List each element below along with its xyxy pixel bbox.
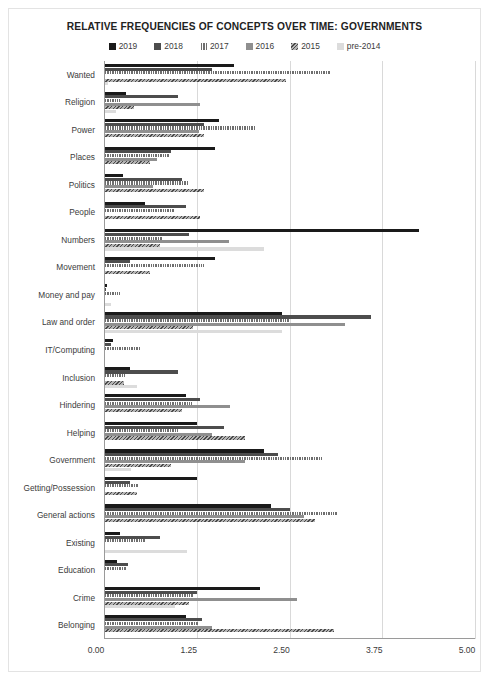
bar[interactable] [104, 433, 212, 436]
bar[interactable] [104, 504, 271, 507]
bar[interactable] [104, 319, 290, 322]
bar[interactable] [104, 237, 163, 240]
bar[interactable] [104, 240, 229, 243]
bar[interactable] [104, 560, 117, 563]
bar[interactable] [104, 134, 204, 137]
bar[interactable] [104, 79, 286, 82]
bar[interactable] [104, 323, 345, 326]
bar[interactable] [104, 95, 178, 98]
bar[interactable] [104, 519, 315, 522]
bar[interactable] [104, 150, 171, 153]
bar[interactable] [104, 68, 212, 71]
bar[interactable] [104, 260, 130, 263]
bar[interactable] [104, 209, 174, 212]
bar[interactable] [104, 426, 224, 429]
bar[interactable] [104, 563, 128, 566]
bar[interactable] [104, 594, 193, 597]
bar[interactable] [104, 598, 297, 601]
bar[interactable] [104, 110, 116, 113]
bar[interactable] [104, 374, 125, 377]
bar[interactable] [104, 315, 371, 318]
bar[interactable] [104, 602, 189, 605]
bar[interactable] [104, 178, 182, 181]
bar[interactable] [104, 512, 338, 515]
bar[interactable] [104, 326, 193, 329]
bar[interactable] [104, 402, 192, 405]
bar[interactable] [104, 92, 126, 95]
bar[interactable] [104, 181, 189, 184]
bar[interactable] [104, 405, 230, 408]
bar[interactable] [104, 185, 153, 188]
bar[interactable] [104, 71, 330, 74]
legend-item-2019[interactable]: 2019 [109, 41, 138, 51]
bar[interactable] [104, 567, 126, 570]
bar[interactable] [104, 429, 178, 432]
bar[interactable] [104, 398, 200, 401]
bar[interactable] [104, 385, 137, 388]
bar[interactable] [104, 244, 160, 247]
bar[interactable] [104, 126, 256, 129]
bar[interactable] [104, 539, 145, 542]
bar[interactable] [104, 464, 171, 467]
legend-item-2015[interactable]: 2015 [291, 41, 320, 51]
bar[interactable] [104, 484, 139, 487]
bar[interactable] [104, 312, 282, 315]
bar[interactable] [104, 202, 145, 205]
bar[interactable] [104, 292, 120, 295]
bar[interactable] [104, 508, 290, 511]
bar[interactable] [104, 257, 215, 260]
bar[interactable] [104, 587, 260, 590]
bar[interactable] [104, 367, 130, 370]
bar[interactable] [104, 147, 215, 150]
bar[interactable] [104, 457, 323, 460]
bar[interactable] [104, 271, 150, 274]
bar[interactable] [104, 99, 120, 102]
bar[interactable] [104, 216, 200, 219]
bar[interactable] [104, 453, 278, 456]
bar[interactable] [104, 532, 120, 535]
bar[interactable] [104, 477, 197, 480]
bar[interactable] [104, 161, 150, 164]
bar[interactable] [104, 154, 169, 157]
bar[interactable] [104, 436, 245, 439]
bar[interactable] [104, 591, 197, 594]
bar[interactable] [104, 343, 111, 346]
bar[interactable] [104, 394, 186, 397]
bar[interactable] [104, 130, 199, 133]
bar[interactable] [104, 339, 113, 342]
bar[interactable] [104, 158, 157, 161]
bar[interactable] [104, 233, 189, 236]
bar[interactable] [104, 449, 264, 452]
bar[interactable] [104, 205, 186, 208]
bar[interactable] [104, 409, 182, 412]
bar[interactable] [104, 618, 202, 621]
bar[interactable] [104, 64, 234, 67]
legend-item-2018[interactable]: 2018 [154, 41, 183, 51]
bar[interactable] [104, 247, 264, 250]
bar[interactable] [104, 174, 123, 177]
bar[interactable] [104, 515, 304, 518]
legend-item-pre-2014[interactable]: pre-2014 [337, 41, 381, 51]
bar[interactable] [104, 422, 197, 425]
legend-item-2016[interactable]: 2016 [246, 41, 275, 51]
bar[interactable] [104, 626, 212, 629]
bar[interactable] [104, 460, 245, 463]
bar[interactable] [104, 370, 178, 373]
bar[interactable] [104, 605, 175, 608]
bar[interactable] [104, 550, 187, 553]
bar[interactable] [104, 481, 130, 484]
bar[interactable] [104, 303, 111, 306]
bar[interactable] [104, 622, 199, 625]
legend-item-2017[interactable]: 2017 [200, 41, 229, 51]
bar[interactable] [104, 103, 200, 106]
bar[interactable] [104, 381, 124, 384]
bar[interactable] [104, 119, 219, 122]
bar[interactable] [104, 264, 204, 267]
bar[interactable] [104, 536, 160, 539]
bar[interactable] [104, 123, 204, 126]
bar[interactable] [104, 629, 334, 632]
bar[interactable] [104, 229, 419, 232]
bar[interactable] [104, 330, 282, 333]
bar[interactable] [104, 492, 137, 495]
bar[interactable] [104, 189, 204, 192]
